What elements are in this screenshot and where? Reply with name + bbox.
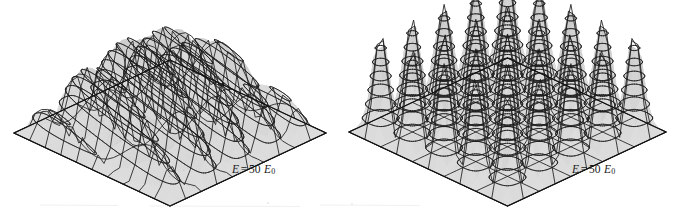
figure-dual-surface-plots: E=50 E0 E=50 E0: [0, 0, 677, 212]
energy-value-right: 50: [589, 163, 601, 175]
energy-label-right: E=50 E0: [572, 163, 615, 176]
energy-unit-subscript-right: 0: [611, 167, 615, 176]
panel-left-degenerate-superposition: E=50 E0: [0, 0, 338, 212]
energy-operator-left: =: [239, 163, 249, 175]
energy-label-left: E=50 E0: [232, 163, 275, 176]
energy-unit-subscript-left: 0: [271, 167, 275, 176]
energy-value-left: 50: [249, 163, 261, 175]
surface-mesh: [349, 0, 666, 206]
energy-operator-right: =: [579, 163, 589, 175]
panel-right-separable-eigenstate: [339, 0, 677, 212]
surface-plot-left: [0, 0, 338, 212]
surface-plot-right: [339, 0, 677, 212]
